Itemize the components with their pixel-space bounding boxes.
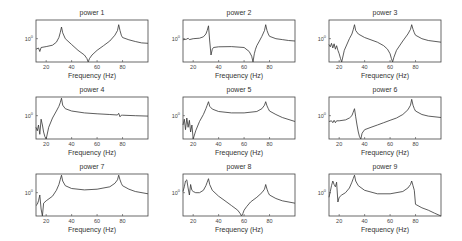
x-tick-label: 80 <box>119 64 125 70</box>
x-tick-label: 40 <box>69 218 75 224</box>
x-tick-label: 20 <box>43 218 49 224</box>
data-line <box>36 25 148 62</box>
x-tick-label: 60 <box>241 64 247 70</box>
x-tick-label: 60 <box>387 141 393 147</box>
x-tick-label: 40 <box>216 64 222 70</box>
data-line <box>329 99 441 139</box>
x-tick-label: 80 <box>412 141 418 147</box>
data-line <box>183 179 295 216</box>
x-tick-label: 40 <box>216 141 222 147</box>
y-tick-label: 100 <box>25 111 34 119</box>
x-tick-label: 60 <box>94 64 100 70</box>
data-line <box>329 175 441 216</box>
x-tick-label: 20 <box>336 218 342 224</box>
data-line <box>183 25 295 62</box>
y-tick-label: 100 <box>172 188 181 196</box>
subplot-9: power 9Frequency (Hz)20406080100 <box>299 163 462 241</box>
x-tick-label: 60 <box>94 218 100 224</box>
x-tick-label: 40 <box>69 141 75 147</box>
x-tick-label: 80 <box>119 218 125 224</box>
axes-box <box>329 97 441 139</box>
x-tick-label: 20 <box>190 141 196 147</box>
x-tick-label: 80 <box>266 64 272 70</box>
x-tick-label: 20 <box>336 64 342 70</box>
subplot-6: power 6Frequency (Hz)20406080100 <box>299 86 462 166</box>
x-tick-label: 80 <box>119 141 125 147</box>
x-tick-label: 60 <box>94 141 100 147</box>
x-tick-label: 80 <box>266 218 272 224</box>
y-tick-label: 100 <box>25 188 34 196</box>
x-tick-label: 40 <box>362 141 368 147</box>
x-tick-label: 60 <box>387 64 393 70</box>
axes-box <box>36 20 148 62</box>
x-tick-label: 40 <box>216 218 222 224</box>
x-tick-label: 80 <box>266 141 272 147</box>
axes-box <box>183 20 295 62</box>
plot-area: 20406080100 <box>299 86 462 166</box>
axes-box <box>329 20 441 62</box>
data-line <box>329 25 441 62</box>
y-tick-label: 100 <box>318 111 327 119</box>
x-tick-label: 40 <box>362 218 368 224</box>
x-tick-label: 80 <box>412 64 418 70</box>
y-tick-label: 100 <box>172 111 181 119</box>
y-tick-label: 100 <box>318 34 327 42</box>
x-tick-label: 40 <box>69 64 75 70</box>
y-tick-label: 100 <box>172 34 181 42</box>
plot-area: 20406080100 <box>299 9 462 89</box>
x-tick-label: 20 <box>190 218 196 224</box>
x-tick-label: 60 <box>241 218 247 224</box>
y-tick-label: 100 <box>25 34 34 42</box>
axes-box <box>183 174 295 216</box>
x-tick-label: 20 <box>190 64 196 70</box>
x-tick-label: 20 <box>336 141 342 147</box>
x-tick-label: 20 <box>43 141 49 147</box>
x-tick-label: 20 <box>43 64 49 70</box>
x-tick-label: 80 <box>412 218 418 224</box>
axes-box <box>329 174 441 216</box>
data-line <box>183 102 295 139</box>
data-line <box>36 98 148 139</box>
x-tick-label: 60 <box>241 141 247 147</box>
y-tick-label: 100 <box>318 188 327 196</box>
axes-box <box>36 174 148 216</box>
plot-area: 20406080100 <box>299 163 462 241</box>
x-tick-label: 40 <box>362 64 368 70</box>
axes-box <box>183 97 295 139</box>
data-line <box>36 175 148 216</box>
x-tick-label: 60 <box>387 218 393 224</box>
subplot-3: power 3Frequency (Hz)20406080100 <box>299 9 462 89</box>
